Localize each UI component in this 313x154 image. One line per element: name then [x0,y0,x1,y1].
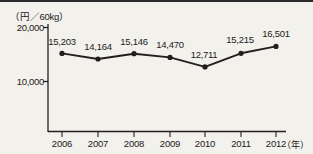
data-point-2010 [202,64,207,69]
series-markers [59,44,278,70]
data-point-2012 [273,44,278,49]
x-tick-label-2011: 2011 [224,138,258,149]
chart-container: （円／60kg） 20,000 10,000 15,203 14,164 15,… [0,0,313,154]
x-tick-label-2010: 2010 [188,138,222,149]
data-point-2006 [59,51,64,56]
plot-area [0,2,313,154]
data-point-2008 [131,51,136,56]
data-point-2007 [95,56,100,61]
x-axis-unit-label: （年） [282,138,309,151]
data-point-2009 [167,55,172,60]
x-tick-label-2006: 2006 [45,138,79,149]
x-tick-label-2009: 2009 [153,138,187,149]
x-tick-label-2008: 2008 [117,138,151,149]
data-point-2011 [238,51,243,56]
x-tick-label-2007: 2007 [81,138,115,149]
